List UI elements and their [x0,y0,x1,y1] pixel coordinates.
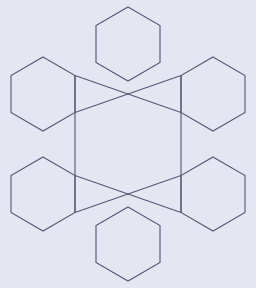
figure-canvas: Hexagonal snowflake lattice Six regular … [0,0,256,288]
lower-right-hexagon [181,157,245,231]
bottom-hexagon [96,207,160,281]
top-hexagon [96,7,160,81]
connector-group [75,76,181,213]
upper-left-hexagon [11,57,75,131]
hexagon-group [11,7,245,281]
hexagon-lattice-drawing [0,0,256,288]
lower-left-hexagon [11,157,75,231]
upper-right-hexagon [181,57,245,131]
